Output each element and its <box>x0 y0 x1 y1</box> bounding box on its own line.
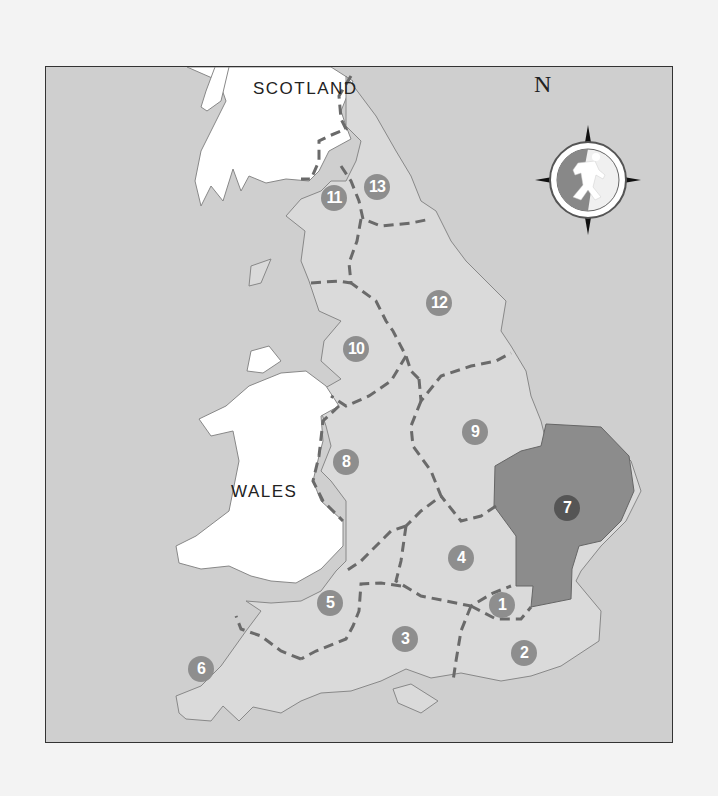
wales-landmass <box>176 371 343 583</box>
region-badge-9: 9 <box>462 419 488 445</box>
region-badge-3: 3 <box>392 626 418 652</box>
isle-of-wight <box>393 684 438 713</box>
region-badge-4: 4 <box>448 545 474 571</box>
scotland-label: SCOTLAND <box>253 79 358 99</box>
region-badge-2: 2 <box>511 640 537 666</box>
anglesey <box>247 346 281 373</box>
compass-north-label: N <box>534 71 551 98</box>
region-badge-5: 5 <box>317 590 343 616</box>
region-badge-1: 1 <box>489 592 515 618</box>
wales-label: WALES <box>231 482 297 502</box>
region-badge-10: 10 <box>343 336 369 362</box>
map-frame: N SCOTLAND WALES 12345678910111213 <box>45 66 673 743</box>
region-badge-7: 7 <box>554 495 580 521</box>
region-badge-6: 6 <box>188 656 214 682</box>
region-badge-11: 11 <box>321 185 347 211</box>
region-badge-8: 8 <box>333 449 359 475</box>
region-badge-12: 12 <box>426 290 452 316</box>
isle-of-man <box>249 259 271 286</box>
region-badge-13: 13 <box>364 174 390 200</box>
compass-rose-icon <box>533 115 643 245</box>
